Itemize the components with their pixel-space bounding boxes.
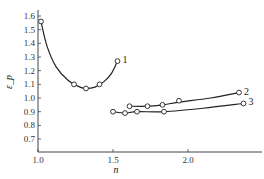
series-1-point bbox=[72, 82, 77, 87]
series-2-point bbox=[145, 104, 150, 109]
y-tick-label: 1.1 bbox=[24, 79, 35, 89]
y-tick-label: 0.7 bbox=[24, 134, 36, 144]
series-3-point bbox=[135, 109, 140, 114]
x-axis-label: n bbox=[114, 164, 119, 175]
y-axis-label: ε_p bbox=[3, 75, 14, 89]
series-2-point bbox=[237, 90, 242, 95]
series-2-point bbox=[127, 104, 132, 109]
series-2-label: 2 bbox=[244, 86, 249, 97]
x-tick-label: 2.0 bbox=[182, 155, 194, 165]
series-1-point bbox=[97, 82, 102, 87]
series-3-line bbox=[113, 103, 244, 113]
series-3-point bbox=[123, 111, 128, 116]
series-2-point bbox=[160, 102, 165, 107]
series-2-point bbox=[177, 98, 182, 103]
y-tick-label: 1.5 bbox=[24, 25, 36, 35]
x-tick-label: 1.0 bbox=[32, 155, 44, 165]
series-3-point bbox=[111, 109, 116, 114]
series-1-point bbox=[39, 19, 44, 24]
plot-area: 123 bbox=[39, 19, 254, 115]
series-1-line bbox=[41, 21, 118, 88]
y-tick-label: 1.6 bbox=[24, 11, 36, 21]
series-3-point bbox=[162, 109, 167, 114]
y-tick-label: 1.2 bbox=[24, 66, 35, 76]
series-3-point bbox=[241, 101, 246, 106]
series-1-label: 1 bbox=[123, 54, 128, 65]
y-tick-label: 1.0 bbox=[24, 93, 36, 103]
series-1-point bbox=[84, 86, 89, 91]
y-tick-label: 1.3 bbox=[24, 52, 36, 62]
y-tick-label: 0.9 bbox=[24, 107, 36, 117]
chart: 0.70.80.91.01.11.21.31.41.51.61.01.52.0 … bbox=[0, 0, 264, 179]
series-1-point bbox=[115, 59, 120, 64]
axes: 0.70.80.91.01.11.21.31.41.51.61.01.52.0 bbox=[24, 10, 262, 165]
y-tick-label: 0.8 bbox=[24, 120, 36, 130]
series-3-label: 3 bbox=[249, 96, 254, 107]
y-tick-label: 1.4 bbox=[24, 38, 36, 48]
